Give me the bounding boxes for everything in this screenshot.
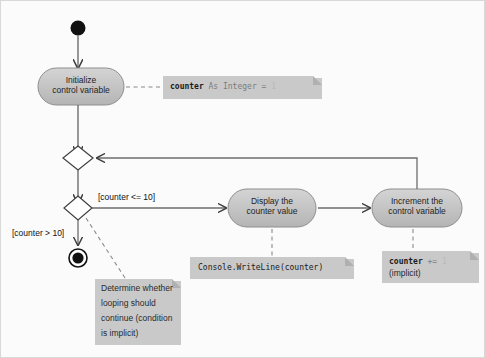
note-decision-line4: is implicit)	[101, 329, 138, 339]
activity-increment-line1: Increment the	[372, 196, 462, 206]
activity-increment-label: Increment the control variable	[372, 196, 462, 216]
note-anchor-decision	[86, 218, 127, 281]
note-decision-line2: looping should	[101, 299, 156, 309]
guard-loop-exit: [counter > 10]	[12, 229, 64, 239]
final-node-core	[72, 252, 83, 263]
activity-initialize-line2: control variable	[38, 85, 124, 95]
note-increment-bold: counter	[389, 257, 423, 266]
activity-increment-line2: control variable	[372, 206, 462, 216]
note-initialize-value: 1	[271, 82, 276, 91]
activity-display-line1: Display the	[228, 196, 316, 206]
activity-initialize-line1: Initialize	[38, 75, 124, 85]
merge-node	[63, 146, 93, 170]
note-display-text: Console.WriteLine(counter)	[198, 263, 323, 272]
activity-initialize-label: Initialize control variable	[38, 75, 124, 95]
note-initialize-bold: counter	[170, 82, 204, 91]
note-increment-mid: +=	[423, 257, 442, 266]
guard-loop-continue: [counter <= 10]	[98, 193, 155, 203]
note-decision-line3: continue (condition	[101, 314, 172, 324]
note-decision-line1: Determine whether	[101, 284, 173, 294]
activity-display-line2: counter value	[228, 206, 316, 216]
diagram-vector-layer	[0, 0, 485, 358]
note-initialize-mid: As Integer =	[204, 82, 271, 91]
edge-increment-to-merge-loopback	[97, 158, 417, 189]
note-increment-line2: (implicit)	[389, 269, 421, 279]
image-border	[1, 1, 485, 358]
note-increment-line1: counter += 1	[389, 257, 447, 266]
initial-node	[71, 21, 86, 36]
decision-node	[64, 196, 92, 220]
activity-display-label: Display the counter value	[228, 196, 316, 216]
note-initialize-text: counter As Integer = 1	[170, 82, 276, 91]
activity-diagram-canvas: Initialize control variable counter As I…	[0, 0, 485, 358]
note-increment-value: 1	[442, 257, 447, 266]
